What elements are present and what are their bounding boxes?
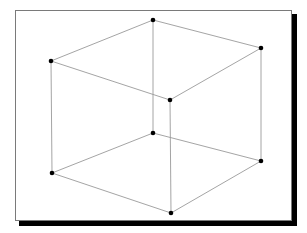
cube-edge-right-bottom-front-bottom [171, 161, 261, 213]
cube-vertex-right-bottom [259, 159, 264, 164]
cube-edge-right-top-front-top [170, 48, 261, 100]
wireframe-cube [0, 0, 307, 233]
cube-vertex-back-top [151, 18, 156, 23]
cube-vertex-front-top [168, 98, 173, 103]
cube-edge-left-top-left-bottom [51, 61, 52, 173]
cube-edge-back-top-left-top [51, 20, 153, 61]
cube-edge-left-top-front-top [51, 61, 170, 100]
cube-vertex-left-top [49, 59, 54, 64]
cube-vertex-left-bottom [50, 171, 55, 176]
cube-edge-back-bottom-left-bottom [52, 133, 153, 173]
cube-edge-left-bottom-front-bottom [52, 173, 171, 213]
cube-vertex-front-bottom [169, 211, 174, 216]
cube-vertex-right-top [259, 46, 264, 51]
cube-edge-back-bottom-right-bottom [153, 133, 261, 161]
cube-vertex-back-bottom [151, 131, 156, 136]
cube-edge-back-top-right-top [153, 20, 261, 48]
diagram-canvas [0, 0, 307, 233]
cube-edges [51, 20, 261, 213]
cube-edge-front-top-front-bottom [170, 100, 171, 213]
cube-vertices [49, 18, 264, 216]
